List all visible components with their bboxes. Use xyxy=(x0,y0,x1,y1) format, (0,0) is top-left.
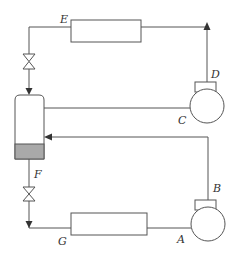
refrigeration-cycle-diagram: E D C B F G A xyxy=(0,0,235,258)
label-b: B xyxy=(212,182,221,195)
pipe-b-to-vessel xyxy=(49,137,208,200)
pipe-e-to-upper-valve xyxy=(29,27,71,54)
label-d: D xyxy=(210,68,220,81)
upper-compressor-icon xyxy=(190,82,224,123)
arrow-down-into-vessel-icon xyxy=(26,88,33,95)
pipe-d-to-upper-hx xyxy=(141,27,207,82)
lower-expansion-valve-icon xyxy=(23,187,35,201)
label-c: C xyxy=(178,114,187,127)
label-a: A xyxy=(176,233,185,246)
flash-tank-liquid xyxy=(15,144,44,159)
label-g: G xyxy=(58,235,67,248)
upper-heat-exchanger xyxy=(71,20,141,42)
label-f: F xyxy=(33,168,42,181)
lower-compressor-icon xyxy=(191,200,225,241)
lower-heat-exchanger xyxy=(71,213,147,235)
arrow-down-g-icon xyxy=(26,221,33,228)
label-e: E xyxy=(59,13,68,26)
arrow-up-d-icon xyxy=(204,22,211,30)
pipe-lower-valve-to-g xyxy=(29,201,71,228)
upper-expansion-valve-icon xyxy=(23,54,35,69)
arrow-left-into-vessel-icon xyxy=(44,134,52,141)
